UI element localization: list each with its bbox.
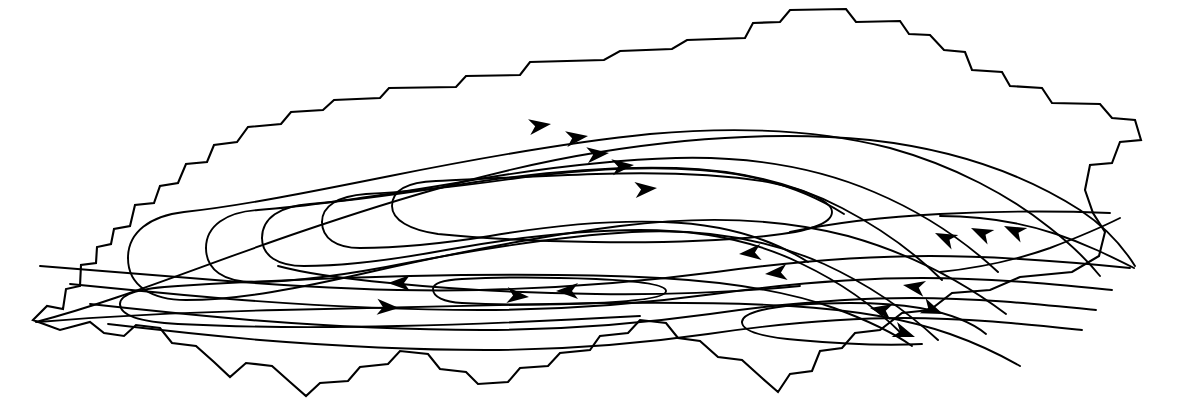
basin-outline: [33, 9, 1141, 396]
circulation-diagram-svg: Circulation streamline pattern within ba…: [0, 0, 1178, 401]
basin-outline-group: [33, 9, 1141, 396]
figure-root: Circulation streamline pattern within ba…: [0, 0, 1178, 401]
